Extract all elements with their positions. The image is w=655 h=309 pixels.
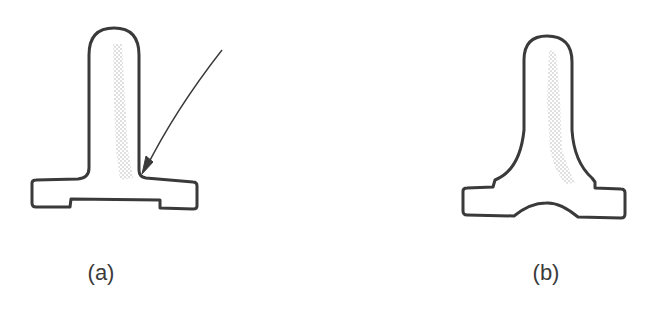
figure-b [463,36,625,218]
arrow-indicator-icon [145,50,222,170]
figure-a [32,28,222,209]
figure-a-label: (a) [88,260,115,286]
figure-b-label: (b) [533,260,560,286]
stipple-shading-a [113,44,133,180]
part-outline-b [463,36,625,218]
